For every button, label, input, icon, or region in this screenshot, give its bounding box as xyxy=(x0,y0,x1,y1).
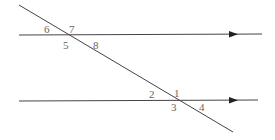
bottom-parallel-line xyxy=(19,100,258,101)
diagram-canvas: 6 7 5 8 2 1 3 4 xyxy=(0,0,275,140)
angle-label-7: 7 xyxy=(69,23,75,35)
angle-label-4: 4 xyxy=(199,101,205,113)
top-arrow-icon xyxy=(229,31,238,37)
angle-label-1: 1 xyxy=(174,87,180,99)
bottom-arrow-icon xyxy=(229,97,238,103)
angle-label-2: 2 xyxy=(149,88,155,100)
angle-label-6: 6 xyxy=(44,23,50,35)
top-parallel-line xyxy=(19,34,262,35)
angle-label-3: 3 xyxy=(171,101,177,113)
angle-label-5: 5 xyxy=(63,39,69,51)
angle-label-8: 8 xyxy=(93,39,99,51)
